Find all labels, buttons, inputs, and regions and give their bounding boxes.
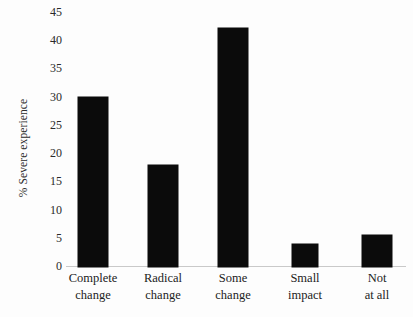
y-tick-label: 40	[36, 34, 62, 46]
y-tick-label: 10	[36, 204, 62, 216]
x-axis-labels: CompletechangeRadicalchangeSomechangeSma…	[0, 270, 413, 317]
plot-area	[66, 12, 406, 267]
y-tick-label: 25	[36, 119, 62, 131]
x-axis-category-label-line: Small	[290, 271, 319, 285]
bar	[362, 235, 392, 267]
y-tick-label: 20	[36, 147, 62, 159]
bar	[292, 244, 318, 267]
y-tick-label: 35	[36, 62, 62, 74]
y-tick-label: 5	[36, 232, 62, 244]
x-axis-category-label-line: Not	[368, 271, 387, 285]
y-tick-label: 45	[36, 6, 62, 18]
y-tick-label: 30	[36, 91, 62, 103]
x-axis-category-label-line: at all	[317, 287, 413, 304]
bar-chart: % Severe experience 454035302520151050 C…	[0, 0, 413, 317]
bar	[148, 165, 178, 267]
y-axis-title: % Severe experience	[14, 48, 32, 248]
x-axis-category-label: Notat all	[317, 270, 413, 304]
bar	[78, 97, 108, 267]
y-tick-label: 15	[36, 175, 62, 187]
x-axis-category-label-line: Some	[219, 271, 247, 285]
bar	[218, 28, 248, 267]
